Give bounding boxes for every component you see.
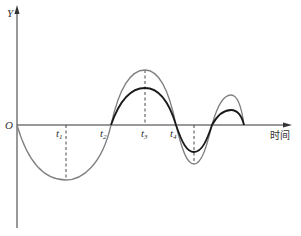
y-axis-label: Y (7, 7, 15, 19)
waveform-diagram: Y O 时间 t1 t2 t3 t4 (0, 0, 301, 236)
x-axis-arrow-icon (283, 123, 292, 128)
tick-t4: t4 (170, 127, 177, 141)
x-axis-label: 时间 (270, 129, 290, 141)
origin-label: O (5, 119, 13, 131)
svg-text:t4: t4 (170, 127, 177, 141)
svg-text:t1: t1 (56, 127, 63, 141)
tick-t3: t3 (141, 127, 148, 141)
grey-curve (111, 70, 244, 164)
shared-trough-curve (17, 125, 111, 180)
tick-t2: t2 (100, 127, 107, 141)
y-axis-arrow-icon (15, 5, 20, 14)
svg-text:t3: t3 (141, 127, 148, 141)
tick-t1: t1 (56, 127, 63, 141)
svg-text:t2: t2 (100, 127, 107, 141)
